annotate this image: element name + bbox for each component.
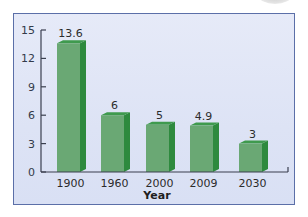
- y-tick-label: 15: [21, 24, 35, 37]
- y-tick-label: 3: [28, 138, 35, 151]
- value-label: 13.6: [58, 27, 83, 40]
- y-tick-label: 12: [21, 52, 35, 65]
- y-tick-label: 6: [28, 109, 35, 122]
- y-tick-label: 9: [28, 81, 35, 94]
- x-tick-label: 2030: [239, 177, 267, 190]
- x-tick-label: 1900: [57, 177, 85, 190]
- value-label: 3: [249, 128, 256, 141]
- bar-2009: 4.9: [190, 110, 219, 172]
- bar-1900: 13.6: [57, 27, 86, 172]
- bar-1960: 6: [101, 99, 130, 172]
- x-tick-label: 1960: [101, 177, 129, 190]
- bar-2030: 3: [239, 128, 268, 172]
- bars: 13.6654.93: [57, 27, 268, 172]
- value-label: 5: [156, 109, 163, 122]
- bar-2000: 5: [146, 109, 175, 172]
- x-axis-title: Year: [142, 189, 171, 202]
- bar-chart: 03691215 13.6654.93 19001960200020092030…: [0, 0, 308, 217]
- value-label: 4.9: [195, 110, 213, 123]
- value-label: 6: [111, 99, 118, 112]
- y-tick-label: 0: [28, 166, 35, 179]
- y-axis: 03691215: [21, 24, 46, 179]
- x-tick-label: 2009: [190, 177, 218, 190]
